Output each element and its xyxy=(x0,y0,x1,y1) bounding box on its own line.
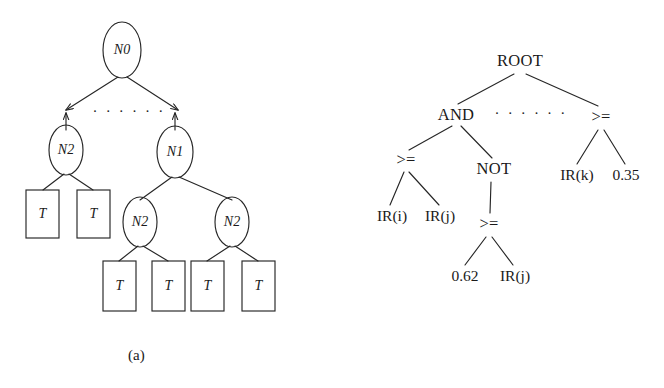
edge-ger-irk xyxy=(577,130,598,164)
edge-n2c-t5 xyxy=(207,246,230,261)
node-and[interactable]: AND xyxy=(438,105,475,124)
edge-n2a-t2 xyxy=(69,174,93,190)
figure-root: N0 N2 N1 N2 N2 T xyxy=(0,0,664,388)
n2-mid-label: N2 xyxy=(131,214,148,229)
edge-gen-062 xyxy=(465,237,486,265)
edge-gen-irj2 xyxy=(492,237,513,265)
t6-label: T xyxy=(255,278,264,293)
leaf-const-062[interactable]: 0.62 xyxy=(451,267,478,284)
n2-left-label: N2 xyxy=(57,142,74,157)
leaf-ir-j2[interactable]: IR(j) xyxy=(500,267,530,285)
node-ge-left[interactable]: >= xyxy=(396,150,415,169)
terminal-box[interactable]: T xyxy=(77,190,110,238)
t3-label: T xyxy=(116,278,125,293)
edge-not-ge xyxy=(490,182,491,213)
edge-ger-035 xyxy=(604,130,625,164)
node-n2-mid[interactable]: N2 xyxy=(123,197,157,247)
node-n0[interactable]: N0 xyxy=(103,22,141,78)
node-ge-right[interactable]: >= xyxy=(591,107,610,126)
edges-from-n1 xyxy=(140,177,232,200)
panel-a-ellipsis: · · · · · · xyxy=(93,103,166,119)
node-n2-right[interactable]: N2 xyxy=(215,197,249,247)
edges-from-n2c xyxy=(207,246,258,261)
panel-b-ellipsis: · · · · · · xyxy=(495,105,568,121)
edges-from-left-n2 xyxy=(43,174,93,190)
leaf-const-035[interactable]: 0.35 xyxy=(612,166,639,183)
leaf-ir-j[interactable]: IR(j) xyxy=(425,207,455,225)
edge-n2b-t3 xyxy=(119,246,138,261)
edges-from-root xyxy=(458,74,598,106)
terminal-box[interactable]: T xyxy=(103,261,136,311)
node-ge-under-not[interactable]: >= xyxy=(479,214,498,233)
terminal-box[interactable]: T xyxy=(26,190,59,238)
panel-a-svg: N0 N2 N1 N2 N2 T xyxy=(0,0,332,388)
edge-and-ge-left xyxy=(409,126,452,150)
edges-from-n2b xyxy=(119,246,168,261)
leaf-ir-i[interactable]: IR(i) xyxy=(377,207,407,225)
edges-from-ge-left xyxy=(390,172,439,205)
terminal-box[interactable]: T xyxy=(152,261,185,311)
edges-from-ge-not xyxy=(465,237,513,265)
n0-label: N0 xyxy=(113,42,130,57)
edge-n2b-t4 xyxy=(143,246,168,261)
leaf-ir-k[interactable]: IR(k) xyxy=(560,166,594,184)
caption-a: (a) xyxy=(128,347,145,364)
n1-label: N1 xyxy=(166,144,183,159)
node-n1[interactable]: N1 xyxy=(157,126,193,178)
edge-n2c-t6 xyxy=(235,246,258,261)
t2-label: T xyxy=(90,206,99,221)
node-not[interactable]: NOT xyxy=(477,159,512,178)
terminal-box[interactable]: T xyxy=(242,261,275,311)
edge-n2a-t1 xyxy=(43,174,64,190)
edge-root-ge xyxy=(526,74,598,106)
n2-right-label: N2 xyxy=(223,214,240,229)
edges-from-ge-right xyxy=(577,130,625,164)
panel-b-expression-tree: ROOT AND >= >= NOT >= IR(i) IR(j) 0.62 I… xyxy=(332,0,664,388)
node-n2-left[interactable]: N2 xyxy=(49,125,83,175)
edge-gel-iri xyxy=(390,172,404,205)
t1-label: T xyxy=(39,206,48,221)
panel-b-svg: ROOT AND >= >= NOT >= IR(i) IR(j) 0.62 I… xyxy=(332,0,664,388)
edge-gel-irj xyxy=(409,172,439,205)
edge-n1-n2c xyxy=(179,177,232,200)
node-root[interactable]: ROOT xyxy=(497,51,543,70)
edges-from-and xyxy=(409,126,492,158)
t4-label: T xyxy=(165,278,174,293)
edge-and-not xyxy=(461,126,492,158)
edge-root-and xyxy=(458,74,514,104)
panel-a-tree-diagram: N0 N2 N1 N2 N2 T xyxy=(0,0,332,388)
terminal-box[interactable]: T xyxy=(191,261,224,311)
t5-label: T xyxy=(204,278,213,293)
edge-n1-n2b xyxy=(140,177,172,200)
